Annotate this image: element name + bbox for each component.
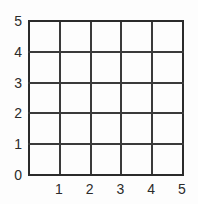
grid-line-horizontal-y0 xyxy=(28,174,184,176)
grid-chart-figure: 5 4 3 2 1 0 1 2 3 4 5 xyxy=(0,0,198,204)
grid-line-vertical-x5 xyxy=(182,20,184,176)
grid-line-horizontal-y5 xyxy=(28,20,184,22)
y-axis-tick-label-0: 0 xyxy=(2,168,22,182)
y-axis-tick-label-1: 1 xyxy=(2,137,22,151)
grid-line-horizontal-y1 xyxy=(28,143,184,145)
y-axis-tick-label-3: 3 xyxy=(2,76,22,90)
plot-area xyxy=(28,20,184,176)
grid-line-vertical-x3 xyxy=(120,20,122,176)
grid-line-horizontal-y2 xyxy=(28,112,184,114)
y-axis-tick-label-5: 5 xyxy=(2,14,22,28)
y-axis-tick-label-4: 4 xyxy=(2,45,22,59)
x-axis-tick-label-1: 1 xyxy=(49,182,69,196)
grid-line-horizontal-y4 xyxy=(28,51,184,53)
grid-line-vertical-x4 xyxy=(151,20,153,176)
grid-line-horizontal-y3 xyxy=(28,82,184,84)
x-axis-tick-label-2: 2 xyxy=(80,182,100,196)
x-axis-tick-label-5: 5 xyxy=(172,182,192,196)
grid-line-vertical-x1 xyxy=(59,20,61,176)
grid-line-vertical-x0 xyxy=(28,20,30,176)
y-axis-tick-label-2: 2 xyxy=(2,106,22,120)
grid-line-vertical-x2 xyxy=(90,20,92,176)
x-axis-tick-label-4: 4 xyxy=(141,182,161,196)
x-axis-tick-label-3: 3 xyxy=(110,182,130,196)
